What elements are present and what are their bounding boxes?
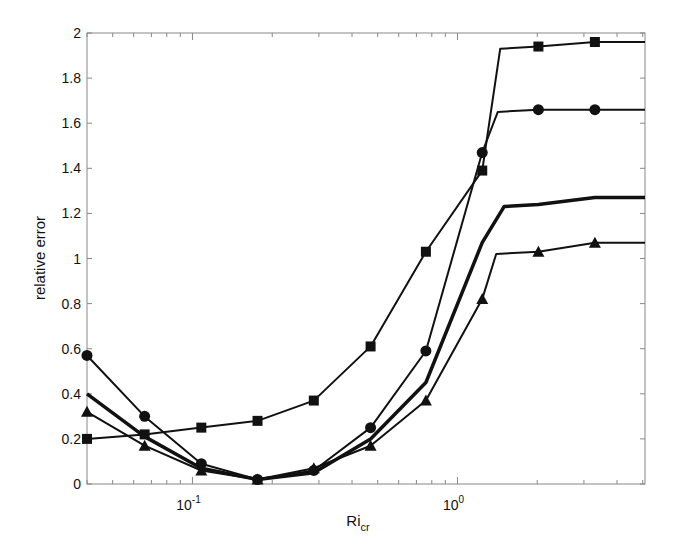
y-tick-label: 1.8 (62, 70, 82, 86)
y-tick-label: 1.6 (62, 115, 82, 131)
square-marker (82, 434, 92, 444)
plot-frame (87, 33, 645, 484)
x-tick-exponent: 0 (458, 494, 464, 505)
triangle-marker (476, 293, 488, 304)
circle-marker (533, 104, 544, 115)
circle-marker (139, 411, 150, 422)
circle-marker (365, 422, 376, 433)
square-marker (253, 416, 263, 426)
triangle-marker (139, 440, 151, 451)
square-marker (309, 396, 319, 406)
x-tick-label: 10-1 (176, 494, 201, 513)
circle-marker (420, 345, 431, 356)
series-line (87, 110, 645, 480)
y-tick-label: 2 (73, 25, 81, 41)
series-layer (81, 37, 645, 485)
x-tick-base: 10 (176, 497, 192, 513)
x-tick-base: 10 (443, 497, 459, 513)
series-line (87, 243, 645, 480)
circle-marker (589, 104, 600, 115)
chart: 00.20.40.60.811.21.41.61.8210-1100 relat… (0, 0, 678, 556)
triangle-marker (420, 395, 432, 406)
triangle-marker (81, 406, 93, 417)
y-tick-label: 0 (73, 476, 81, 492)
series-line (87, 42, 645, 439)
x-tick-exponent: -1 (192, 494, 201, 505)
x-axis-label-subscript: cr (361, 521, 371, 533)
x-axis-label-main: Ri (346, 512, 360, 529)
square-marker (366, 341, 376, 351)
x-axis-label: Ricr (346, 512, 370, 533)
square-marker (196, 423, 206, 433)
square-marker (421, 247, 431, 257)
series-circle (82, 104, 646, 485)
circle-marker (82, 350, 93, 361)
y-tick-label: 0.4 (62, 386, 82, 402)
y-axis-label: relative error (31, 216, 48, 300)
y-tick-label: 0.8 (62, 296, 82, 312)
y-tick-label: 0.2 (62, 431, 82, 447)
square-marker (590, 37, 600, 47)
y-tick-label: 0.6 (62, 341, 82, 357)
y-tick-label: 1 (73, 251, 81, 267)
square-marker (533, 42, 543, 52)
x-tick-label: 100 (443, 494, 465, 513)
y-tick-label: 1.2 (62, 205, 82, 221)
circle-marker (477, 147, 488, 158)
series-square (82, 37, 645, 444)
y-tick-label: 1.4 (62, 160, 82, 176)
